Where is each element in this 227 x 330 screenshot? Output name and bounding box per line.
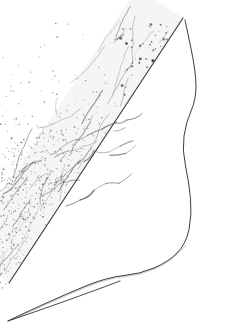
illustration-figure [0, 0, 227, 330]
illustration-canvas [0, 0, 227, 330]
